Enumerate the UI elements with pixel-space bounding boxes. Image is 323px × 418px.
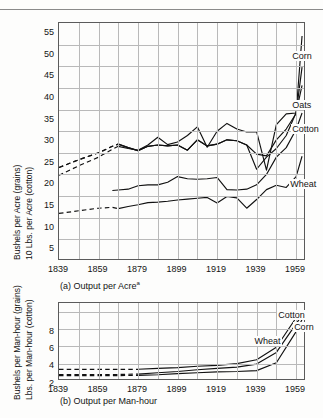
gridline-vertical bbox=[138, 303, 139, 379]
chart-a-x-tick-labels: 1839185918791899191919391959 bbox=[58, 264, 305, 278]
gridline-vertical bbox=[158, 23, 159, 259]
gridline-vertical bbox=[178, 303, 179, 379]
y-tick-label: 30 bbox=[44, 135, 54, 145]
x-tick-label: 1839 bbox=[48, 384, 68, 394]
series-label-wheat: Wheat bbox=[254, 336, 282, 346]
gridline-vertical bbox=[79, 303, 80, 379]
gridline-horizontal bbox=[59, 312, 304, 313]
gridline-vertical bbox=[217, 23, 218, 259]
top-divider-rule bbox=[0, 9, 323, 10]
series-line bbox=[118, 85, 302, 169]
chart-b-y-tick-labels: 2468 bbox=[36, 302, 54, 380]
y-tick-label: 6 bbox=[49, 343, 54, 353]
gridline-horizontal bbox=[59, 45, 304, 46]
gridline-horizontal bbox=[59, 239, 304, 240]
x-tick-label: 1919 bbox=[206, 384, 226, 394]
gridline-vertical bbox=[99, 303, 100, 379]
chart-b-y-axis-title-line1: Bushels per Man-hour (grains) bbox=[12, 285, 22, 400]
series-label-cotton: Cotton bbox=[277, 310, 306, 320]
series-line-dashed bbox=[59, 207, 118, 213]
x-tick-label: 1839 bbox=[48, 264, 68, 274]
gridline-vertical bbox=[138, 23, 139, 259]
series-line bbox=[138, 319, 302, 375]
series-line-dashed bbox=[59, 144, 118, 167]
gridline-vertical bbox=[237, 303, 238, 379]
chart-a-plot-area bbox=[58, 22, 305, 260]
gridline-vertical bbox=[237, 23, 238, 259]
gridline-horizontal bbox=[59, 364, 304, 365]
y-tick-label: 35 bbox=[44, 114, 54, 124]
gridline-horizontal bbox=[59, 110, 304, 111]
chart-output-per-acre: Bushels per Acre (grains) 10 Lbs. per Ac… bbox=[0, 12, 323, 270]
top-cut-header bbox=[0, 0, 323, 9]
gridline-vertical bbox=[257, 23, 258, 259]
x-tick-label: 1879 bbox=[127, 264, 147, 274]
gridline-horizontal bbox=[59, 131, 304, 132]
x-tick-label: 1899 bbox=[167, 264, 187, 274]
x-tick-label: 1859 bbox=[88, 384, 108, 394]
gridline-horizontal bbox=[59, 66, 304, 67]
gridline-vertical bbox=[197, 23, 198, 259]
gridline-horizontal bbox=[59, 88, 304, 89]
x-tick-label: 1939 bbox=[246, 264, 266, 274]
y-tick-label: 20 bbox=[44, 178, 54, 188]
chart-b-y-axis-title-line2: Lbs. per Man-hour (cotton) bbox=[24, 299, 34, 400]
chart-a-y-tick-labels: 510152025303540455055 bbox=[36, 22, 54, 260]
gridline-vertical bbox=[99, 23, 100, 259]
y-tick-label: 55 bbox=[44, 27, 54, 37]
gridline-horizontal bbox=[59, 218, 304, 219]
gridline-vertical bbox=[158, 303, 159, 379]
x-tick-label: 1859 bbox=[88, 264, 108, 274]
gridline-vertical bbox=[217, 303, 218, 379]
series-line bbox=[118, 156, 302, 208]
chart-a-y-axis-title-line2: 10 Lbs. per Acre (cotton) bbox=[24, 167, 34, 260]
series-label-corn: Corn bbox=[291, 51, 313, 61]
gridline-vertical bbox=[276, 23, 277, 259]
y-tick-label: 5 bbox=[49, 243, 54, 253]
x-tick-label: 1899 bbox=[167, 384, 187, 394]
x-tick-label: 1959 bbox=[285, 264, 305, 274]
chart-a-y-axis-title-line1: Bushels per Acre (grains) bbox=[12, 165, 22, 260]
y-tick-label: 4 bbox=[49, 360, 54, 370]
x-tick-label: 1959 bbox=[285, 384, 305, 394]
gridline-horizontal bbox=[59, 196, 304, 197]
y-tick-label: 10 bbox=[44, 222, 54, 232]
chart-a-series-lines bbox=[59, 23, 306, 261]
y-tick-label: 50 bbox=[44, 49, 54, 59]
y-tick-label: 8 bbox=[49, 326, 54, 336]
y-tick-label: 40 bbox=[44, 92, 54, 102]
chart-output-per-man-hour: Bushels per Man-hour (grains) Lbs. per M… bbox=[0, 282, 323, 412]
series-label-oats: Oats bbox=[291, 100, 312, 110]
figure-page: Bushels per Acre (grains) 10 Lbs. per Ac… bbox=[0, 0, 323, 418]
y-tick-label: 25 bbox=[44, 157, 54, 167]
gridline-vertical bbox=[178, 23, 179, 259]
series-label-wheat: Wheat bbox=[289, 179, 317, 189]
y-tick-label: 45 bbox=[44, 70, 54, 80]
gridline-vertical bbox=[118, 23, 119, 259]
chart-b-caption: (b) Output per Man-hour bbox=[60, 396, 157, 406]
gridline-horizontal bbox=[59, 174, 304, 175]
series-line-dashed bbox=[59, 146, 118, 175]
gridline-horizontal bbox=[59, 153, 304, 154]
x-tick-label: 1939 bbox=[246, 384, 266, 394]
series-label-cotton: Cotton bbox=[291, 124, 320, 134]
gridline-vertical bbox=[79, 23, 80, 259]
gridline-vertical bbox=[197, 303, 198, 379]
y-tick-label: 15 bbox=[44, 200, 54, 210]
gridline-horizontal bbox=[59, 329, 304, 330]
series-label-corn: Corn bbox=[293, 322, 315, 332]
x-tick-label: 1919 bbox=[206, 264, 226, 274]
gridline-vertical bbox=[118, 303, 119, 379]
series-line bbox=[112, 113, 302, 190]
gridline-horizontal bbox=[59, 346, 304, 347]
x-tick-label: 1879 bbox=[127, 384, 147, 394]
